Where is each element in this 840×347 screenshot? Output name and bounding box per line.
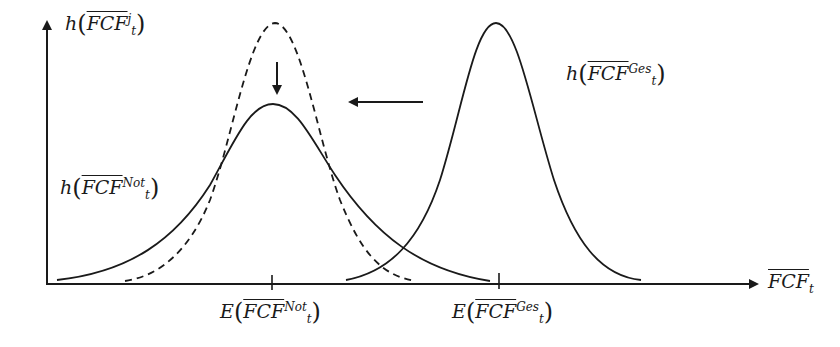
x-axis-label: FCFt [768,272,814,295]
y-axis-label: h(FCFjt) [65,12,145,37]
dashed-reference-curve [125,23,416,281]
ges-curve-label: h(FCFGest) [566,62,666,87]
distribution-diagram [0,0,840,347]
tick-label-ges: E(FCFGest) [452,300,553,325]
not-curve-label: h(FCFNott) [60,176,159,201]
tick-label-not: E(FCFNott) [220,300,321,325]
